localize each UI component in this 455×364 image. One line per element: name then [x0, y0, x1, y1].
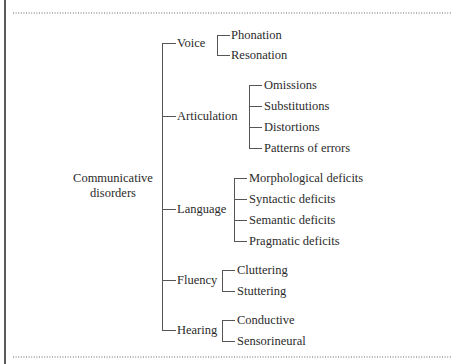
leaf-semantic-deficits: Semantic deficits [249, 213, 336, 227]
leaf-conductive: Conductive [237, 313, 295, 327]
branch-fluency: Fluency [177, 273, 218, 287]
leaf-sensorineural: Sensorineural [237, 334, 306, 348]
leaf-syntactic-deficits: Syntactic deficits [249, 192, 336, 206]
branch-articulation: Articulation [177, 109, 238, 123]
leaf-patterns-of-errors: Patterns of errors [264, 141, 350, 155]
root-label-line-1: Communicative [73, 171, 153, 185]
leaf-pragmatic-deficits: Pragmatic deficits [249, 234, 340, 248]
leaf-stuttering: Stuttering [237, 284, 287, 298]
leaf-substitutions: Substitutions [264, 99, 329, 113]
branch-hearing: Hearing [177, 323, 218, 337]
leaf-distortions: Distortions [264, 120, 320, 134]
leaf-phonation: Phonation [231, 28, 282, 42]
tree-diagram: Communicative disorders Voice Phonation … [0, 0, 455, 364]
leaf-omissions: Omissions [264, 78, 317, 92]
root-label-line-2: disorders [90, 186, 136, 200]
branch-voice: Voice [177, 36, 206, 50]
branch-language: Language [177, 202, 227, 216]
leaf-cluttering: Cluttering [237, 263, 288, 277]
leaf-resonation: Resonation [231, 48, 288, 62]
leaf-morphological-deficits: Morphological deficits [249, 171, 363, 185]
